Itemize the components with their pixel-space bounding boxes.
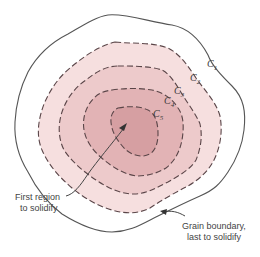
grain-boundary-label-line1: Grain boundary, bbox=[182, 221, 246, 231]
solidification-diagram: C1 C2 C3 C4 C5 First region to solidify … bbox=[0, 0, 260, 257]
grain-boundary-label-line2: last to solidify bbox=[187, 232, 242, 242]
first-region-label-line1: First region bbox=[15, 192, 60, 202]
first-region-label-line2: to solidify bbox=[20, 203, 58, 213]
